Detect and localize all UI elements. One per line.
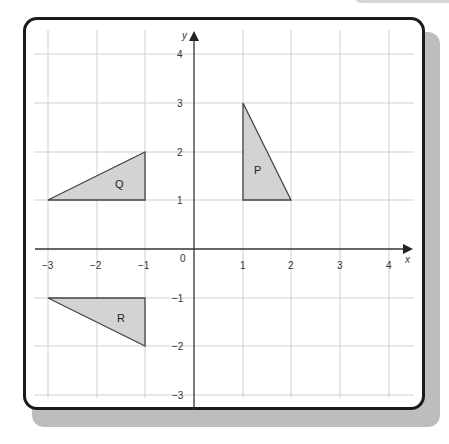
- x-axis-label: x: [404, 254, 411, 265]
- origin-label: 0: [180, 253, 186, 264]
- y-tick-label: 3: [177, 98, 183, 109]
- x-tick-label: −2: [90, 260, 102, 271]
- x-tick-label: 3: [337, 260, 343, 271]
- y-tick-label: 1: [177, 195, 183, 206]
- x-axis-arrow-icon: [403, 244, 413, 254]
- y-axis-arrow-icon: [189, 31, 199, 41]
- y-tick-label: −2: [172, 341, 184, 352]
- y-tick-label: 2: [177, 147, 183, 158]
- shape-label-p: P: [254, 164, 261, 176]
- x-tick-label: −3: [42, 260, 54, 271]
- grid-lines: [34, 30, 414, 398]
- x-tick-label: 1: [240, 260, 246, 271]
- shape-label-q: Q: [115, 178, 124, 190]
- y-tick-label: 4: [177, 49, 183, 60]
- y-tick-label: −1: [172, 293, 184, 304]
- shape-label-r: R: [117, 312, 125, 324]
- coordinate-grid: x y 0 −3 −2 −1 1 2 3 4 4 3 2 1 −1 −2 −3 …: [0, 0, 449, 444]
- y-axis-label: y: [181, 30, 188, 41]
- x-tick-label: 2: [288, 260, 294, 271]
- x-tick-label: 4: [386, 260, 392, 271]
- x-tick-label: −1: [138, 260, 150, 271]
- y-tick-label: −3: [172, 390, 184, 401]
